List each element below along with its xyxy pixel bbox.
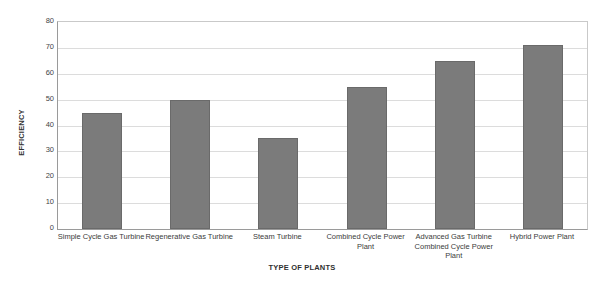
x-axis-tick-label: Combined Cycle Power Plant: [322, 232, 410, 251]
y-axis-tick-label: 80: [38, 17, 54, 25]
y-axis-tick-label: 40: [38, 121, 54, 129]
bar-slot: [499, 22, 587, 229]
x-axis-tick-label: Hybrid Power Plant: [498, 232, 586, 242]
bar[interactable]: [170, 100, 210, 229]
x-axis-title: TYPE OF PLANTS: [0, 263, 604, 272]
y-axis-tick-label: 0: [38, 224, 54, 232]
x-axis-tick-label: Steam Turbine: [233, 232, 321, 242]
bar-slot: [411, 22, 499, 229]
y-axis-tick-labels: 80706050403020100: [36, 21, 54, 228]
x-axis-tick-label: Simple Cycle Gas Turbine: [57, 232, 145, 242]
bar-slot: [58, 22, 146, 229]
plot-area: [57, 21, 588, 230]
x-axis-tick-label: Regenerative Gas Turbine: [145, 232, 233, 242]
bar[interactable]: [82, 113, 122, 229]
y-axis-tick-label: 60: [38, 69, 54, 77]
x-axis-tick-label: Advanced Gas Turbine Combined Cycle Powe…: [410, 232, 498, 261]
y-axis-tick-label: 10: [38, 198, 54, 206]
y-axis-tick-label: 30: [38, 147, 54, 155]
y-axis-tick-label: 50: [38, 95, 54, 103]
y-axis-title: EFFICIENCY: [14, 92, 28, 172]
bars-layer: [58, 22, 587, 229]
bar-slot: [323, 22, 411, 229]
y-axis-tick-label: 70: [38, 43, 54, 51]
bar-chart: EFFICIENCY 80706050403020100 Simple Cycl…: [0, 0, 604, 283]
y-axis-tick-label: 20: [38, 173, 54, 181]
bar-slot: [146, 22, 234, 229]
bar[interactable]: [347, 87, 387, 229]
bar[interactable]: [523, 45, 563, 229]
bar[interactable]: [258, 138, 298, 229]
bar[interactable]: [435, 61, 475, 229]
y-axis-title-label: EFFICIENCY: [17, 109, 26, 156]
x-axis-tick-labels: Simple Cycle Gas TurbineRegenerative Gas…: [57, 232, 588, 266]
bar-slot: [234, 22, 322, 229]
